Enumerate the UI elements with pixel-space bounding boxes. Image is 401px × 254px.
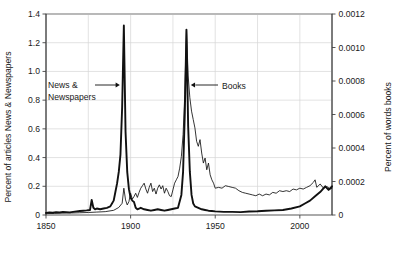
annotation-books: Books [191,81,246,91]
y-axis-right-tick-label: 0.0012 [339,9,366,19]
gridlines [47,14,331,214]
annotation-news-label-line1: News & [48,80,78,90]
x-axis-tick-label: 2000 [290,221,309,231]
y-axis-left-tick-labels: 00.20.40.60.81.01.21.4 [28,9,40,220]
annotation-news-newspapers: News & Newspapers [48,80,120,102]
y-axis-right-tick-label: 0.0010 [339,43,366,53]
y-axis-left-tick-label: 0.6 [28,124,40,134]
axis-ticks [43,14,336,219]
y-axis-right-tick-labels: 00.00020.00040.00060.00080.00100.0012 [339,9,366,220]
annotation-books-arrow-head [191,82,195,87]
y-axis-left-tick-label: 0.4 [28,153,40,163]
y-axis-left-tick-label: 1.2 [28,38,40,48]
y-axis-right-tick-label: 0.0008 [339,76,366,86]
x-axis-tick-label: 1900 [121,221,140,231]
x-axis-tick-label: 1850 [36,221,55,231]
x-axis-tick-labels: 1850190019502000 [36,221,309,231]
annotation-books-label: Books [222,81,246,91]
y-axis-right-tick-label: 0.0006 [339,110,366,120]
y-axis-left-tick-label: 0.8 [28,95,40,105]
annotation-news-label-line2: Newspapers [48,92,96,102]
chart-container: 1850190019502000 00.20.40.60.81.01.21.4 … [0,0,401,254]
y-axis-right-title: Percent of words books [383,82,393,172]
annotation-news-arrow-head [116,82,120,87]
y-axis-left-tick-label: 0.2 [28,181,40,191]
plot-frame [46,14,332,215]
y-axis-left-title: Percent of articles News & Newspapers [3,52,13,203]
y-axis-left-tick-label: 1.4 [28,9,40,19]
ngram-dual-axis-line-chart: 1850190019502000 00.20.40.60.81.01.21.4 … [0,0,401,254]
y-axis-left-tick-label: 1.0 [28,66,40,76]
x-axis-tick-label: 1950 [206,221,225,231]
series-line-news-newspapers [46,25,332,212]
y-axis-right-tick-label: 0.0004 [339,143,366,153]
y-axis-left-tick-label: 0 [35,210,40,220]
y-axis-right-tick-label: 0 [339,210,344,220]
y-axis-right-tick-label: 0.0002 [339,177,366,187]
